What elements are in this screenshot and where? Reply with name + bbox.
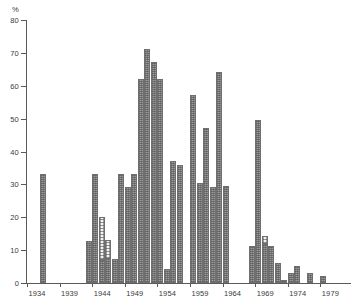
bar-1972: [275, 263, 281, 283]
bar-1949: [125, 187, 131, 283]
bar-1943: [86, 241, 92, 283]
bar-1975: [294, 266, 300, 283]
bar-1950: [131, 174, 137, 283]
bar-1961: [203, 128, 209, 283]
bar-1948: [118, 174, 124, 283]
bar-1963: [216, 72, 222, 283]
bar-1954: [157, 79, 163, 283]
bar-1974: [288, 273, 294, 283]
bar-1968: [249, 246, 255, 283]
bar-1946: [105, 259, 111, 283]
bars-layer: [0, 0, 357, 306]
bar-1953: [151, 62, 157, 283]
bar-1973: [281, 280, 287, 283]
bar-1951: [138, 79, 144, 283]
bar-1957: [177, 165, 183, 283]
bar-1959: [190, 95, 196, 283]
bar-overlay-1970: [262, 236, 268, 243]
bar-1945: [99, 260, 105, 283]
bar-1970: [262, 244, 268, 283]
bar-chart: % 01020304050607080 19341939194419491954…: [0, 0, 357, 306]
bar-1969: [255, 120, 261, 283]
bar-1960: [197, 183, 203, 283]
bar-1956: [170, 161, 176, 283]
bar-overlay-1945: [99, 217, 105, 260]
bar-1977: [307, 273, 313, 283]
bar-1979: [320, 276, 326, 283]
bar-1952: [144, 49, 150, 283]
bar-1947: [112, 259, 118, 283]
bar-1971: [268, 246, 274, 283]
bar-1962: [210, 187, 216, 283]
bar-1955: [164, 269, 170, 283]
bar-1936: [40, 174, 46, 283]
bar-overlay-1946: [105, 240, 111, 259]
bar-1964: [223, 186, 229, 283]
bar-1944: [92, 174, 98, 283]
